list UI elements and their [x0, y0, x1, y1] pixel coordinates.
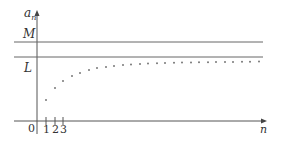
sequence-point	[122, 64, 124, 66]
sequence-point	[207, 61, 209, 63]
sequence-point	[198, 61, 200, 63]
sequence-point	[88, 69, 90, 71]
sequence-point	[164, 62, 166, 64]
sequence-point	[79, 72, 81, 74]
label-L: L	[23, 61, 32, 75]
sequence-point	[215, 61, 217, 63]
y-axis-label: an	[24, 6, 36, 22]
sequence-point	[139, 63, 141, 65]
sequence-point	[249, 61, 251, 63]
sequence-point	[232, 61, 234, 63]
sequence-point	[105, 66, 107, 68]
tick-label-1: 1	[43, 123, 50, 136]
tick-label-3: 3	[60, 123, 67, 136]
sequence-point	[173, 62, 175, 64]
sequence-point	[54, 87, 56, 89]
sequence-point	[62, 80, 64, 82]
label-M: M	[22, 27, 36, 41]
origin-label: 0	[28, 122, 35, 135]
sequence-point	[181, 62, 183, 64]
sequence-point	[71, 75, 73, 77]
sequence-point	[224, 61, 226, 63]
sequence-point	[45, 99, 47, 101]
sequence-point	[113, 65, 115, 67]
tick-label-2: 2	[52, 123, 59, 136]
sequence-points	[45, 61, 260, 101]
x-axis-label: n	[260, 123, 267, 136]
sequence-point	[147, 63, 149, 65]
sequence-point	[258, 61, 260, 63]
sequence-point	[156, 62, 158, 64]
sequence-point	[96, 67, 98, 69]
sequence-point	[190, 61, 192, 63]
sequence-point	[130, 64, 132, 66]
sequence-diagram: an M L 0 1 2 3 n	[0, 0, 283, 145]
sequence-point	[241, 61, 243, 63]
